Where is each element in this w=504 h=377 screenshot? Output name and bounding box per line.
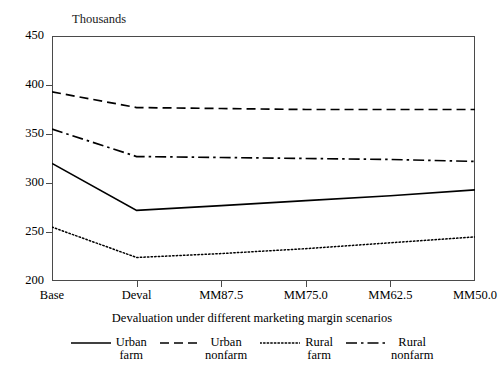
y-axis-tick-label: 250 bbox=[0, 225, 44, 238]
chart-legend: UrbanfarmUrbannonfarmRuralfarmRuralnonfa… bbox=[0, 336, 504, 362]
y-axis-tick-mark bbox=[46, 183, 53, 184]
legend-label-line2: farm bbox=[116, 349, 147, 362]
series-line bbox=[52, 129, 475, 161]
x-axis-tick-label: Deval bbox=[122, 288, 152, 302]
x-axis-tick-label: MM75.0 bbox=[284, 288, 328, 302]
series-line bbox=[52, 92, 475, 110]
y-axis-tick-mark bbox=[46, 85, 53, 86]
legend-item[interactable]: Ruralnonfarm bbox=[346, 336, 433, 362]
y-axis-tick-label: 400 bbox=[0, 78, 44, 91]
legend-item[interactable]: Ruralfarm bbox=[260, 336, 333, 362]
legend-item[interactable]: Urbanfarm bbox=[71, 336, 147, 362]
x-axis-tick-mark bbox=[390, 281, 391, 287]
x-axis-title: Devaluation under different marketing ma… bbox=[0, 311, 504, 326]
legend-item[interactable]: Urbannonfarm bbox=[160, 336, 247, 362]
legend-label: Ruralfarm bbox=[305, 336, 333, 362]
plot-lines-svg bbox=[52, 36, 475, 281]
legend-label: Ruralnonfarm bbox=[391, 336, 433, 362]
legend-label-line2: farm bbox=[305, 349, 333, 362]
y-axis-tick-mark bbox=[46, 232, 53, 233]
legend-line-sample bbox=[71, 336, 111, 350]
series-line bbox=[52, 163, 475, 210]
x-axis-tick-label: MM87.5 bbox=[199, 288, 243, 302]
legend-line-sample bbox=[346, 336, 386, 350]
x-axis-tick-label: MM50.0 bbox=[453, 288, 497, 302]
legend-line-sample bbox=[260, 336, 300, 350]
legend-line-sample bbox=[160, 336, 200, 350]
x-axis-tick-mark bbox=[306, 281, 307, 287]
legend-label-line2: nonfarm bbox=[391, 349, 433, 362]
legend-label: Urbannonfarm bbox=[205, 336, 247, 362]
legend-label-line2: nonfarm bbox=[205, 349, 247, 362]
y-axis-tick-label: 200 bbox=[0, 274, 44, 287]
x-axis-tick-label: MM62.5 bbox=[368, 288, 412, 302]
y-axis-tick-label: 450 bbox=[0, 29, 44, 42]
legend-label: Urbanfarm bbox=[116, 336, 147, 362]
x-axis-tick-mark bbox=[221, 281, 222, 287]
y-axis-tick-label: 300 bbox=[0, 176, 44, 189]
x-axis-tick-label: Base bbox=[40, 288, 64, 302]
series-line bbox=[52, 227, 475, 257]
y-axis-tick-mark bbox=[46, 134, 53, 135]
y-axis-unit-label: Thousands bbox=[72, 12, 126, 26]
y-axis-tick-label: 350 bbox=[0, 127, 44, 140]
x-axis-tick-mark bbox=[137, 281, 138, 287]
chart-figure: Thousands 450400350300250200 BaseDevalMM… bbox=[0, 0, 504, 377]
